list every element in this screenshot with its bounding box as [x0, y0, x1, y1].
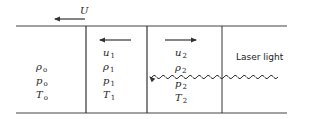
laser-light-beam	[150, 75, 278, 78]
laser-light-label: Laser light	[236, 52, 283, 62]
subscript: 1	[110, 52, 114, 60]
shock-velocity-label: U	[80, 6, 88, 16]
region-0-density: ρo	[36, 62, 47, 75]
region-0-pressure: po	[36, 76, 48, 89]
subscript: o	[43, 80, 47, 88]
symbol: p	[103, 75, 109, 86]
region-2-temperature: T2	[175, 93, 187, 106]
symbol: ρ	[175, 62, 181, 73]
subscript: o	[43, 66, 47, 74]
subscript: 1	[110, 66, 114, 74]
region-1-pressure: p1	[103, 76, 115, 89]
symbol: T	[175, 92, 182, 103]
region-2-velocity: u2	[175, 48, 187, 61]
symbol: T	[103, 89, 110, 100]
region-0-temperature: To	[36, 90, 48, 103]
symbol: p	[36, 75, 42, 86]
region-2-pressure: p2	[175, 79, 187, 92]
symbol: u	[103, 47, 109, 58]
region-1-temperature: T1	[103, 90, 115, 103]
symbol: ρ	[36, 61, 42, 72]
subscript: o	[44, 94, 48, 102]
region-1-velocity: u1	[103, 48, 115, 61]
symbol: p	[175, 78, 181, 89]
region-1-density: ρ1	[103, 62, 114, 75]
subscript: 2	[183, 97, 187, 105]
subscript: 1	[110, 80, 114, 88]
subscript: 2	[182, 67, 186, 75]
subscript: 2	[182, 83, 186, 91]
subscript: 2	[182, 52, 186, 60]
region-2-density: ρ2	[175, 63, 186, 76]
symbol: u	[175, 47, 181, 58]
subscript: 1	[111, 94, 115, 102]
symbol: T	[36, 89, 43, 100]
symbol: ρ	[103, 61, 109, 72]
